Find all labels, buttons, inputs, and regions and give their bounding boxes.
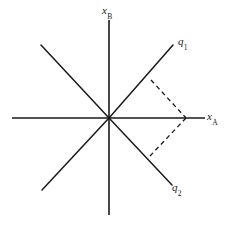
ray-label-q1-subscript: 1 — [184, 43, 188, 52]
ray-q2-extension — [41, 45, 109, 118]
ray-label-q2-subscript: 2 — [178, 189, 182, 198]
ray-label-q2-base: q — [172, 181, 178, 193]
diagram-canvas: xB xA q1 q2 — [0, 0, 230, 226]
diagram-svg — [0, 0, 230, 226]
axis-label-xb: xB — [102, 5, 112, 19]
axis-label-xb-subscript: B — [107, 12, 112, 21]
ray-label-q1: q1 — [178, 36, 187, 50]
ray-label-q2: q2 — [172, 182, 181, 196]
axis-label-xa: xA — [207, 111, 217, 125]
ray-q2 — [109, 118, 172, 185]
axis-label-xa-subscript: A — [212, 118, 217, 127]
ray-q1 — [109, 45, 173, 118]
dashed-lower-projection — [150, 118, 186, 156]
dashed-upper-projection — [151, 80, 186, 118]
ray-label-q1-base: q — [178, 35, 184, 47]
ray-q1-extension — [42, 118, 109, 190]
